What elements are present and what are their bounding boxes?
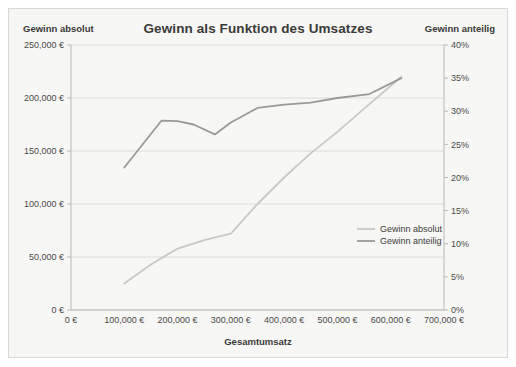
svg-text:10%: 10% [451,239,469,249]
x-axis-ticks: 0 €100,000 €200,000 €300,000 €400,000 €5… [65,315,464,325]
svg-text:40%: 40% [451,40,469,50]
svg-text:Gewinn anteilig: Gewinn anteilig [380,236,442,246]
svg-text:50,000 €: 50,000 € [29,252,64,262]
svg-text:Gewinn absolut: Gewinn absolut [380,224,443,234]
svg-text:20%: 20% [451,173,469,183]
svg-text:150,000 €: 150,000 € [24,146,64,156]
svg-text:700,000 €: 700,000 € [424,315,464,325]
svg-text:35%: 35% [451,73,469,83]
svg-text:500,000 €: 500,000 € [317,315,357,325]
svg-text:250,000 €: 250,000 € [24,40,64,50]
svg-text:200,000 €: 200,000 € [24,93,64,103]
svg-text:5%: 5% [451,272,464,282]
x-axis-title: Gesamtumsatz [9,336,507,347]
svg-text:15%: 15% [451,206,469,216]
svg-text:400,000 €: 400,000 € [264,315,304,325]
series-lines [124,77,401,284]
svg-text:600,000 €: 600,000 € [371,315,411,325]
svg-text:0%: 0% [451,305,464,315]
svg-text:200,000 €: 200,000 € [158,315,198,325]
svg-text:25%: 25% [451,140,469,150]
svg-text:100,000 €: 100,000 € [24,199,64,209]
chart-plot: 0 €50,000 €100,000 €150,000 €200,000 €25… [9,9,509,359]
chart-card: Gewinn absolut Gewinn als Funktion des U… [8,8,508,358]
y-axis-left-ticks: 0 €50,000 €100,000 €150,000 €200,000 €25… [24,40,71,315]
svg-text:0 €: 0 € [51,305,64,315]
svg-text:0 €: 0 € [65,315,78,325]
svg-text:100,000 €: 100,000 € [104,315,144,325]
y-axis-right-ticks: 0%5%10%15%20%25%30%35%40% [444,40,469,315]
chart-legend: Gewinn absolutGewinn anteilig [357,224,443,246]
svg-text:300,000 €: 300,000 € [211,315,251,325]
svg-text:30%: 30% [451,106,469,116]
